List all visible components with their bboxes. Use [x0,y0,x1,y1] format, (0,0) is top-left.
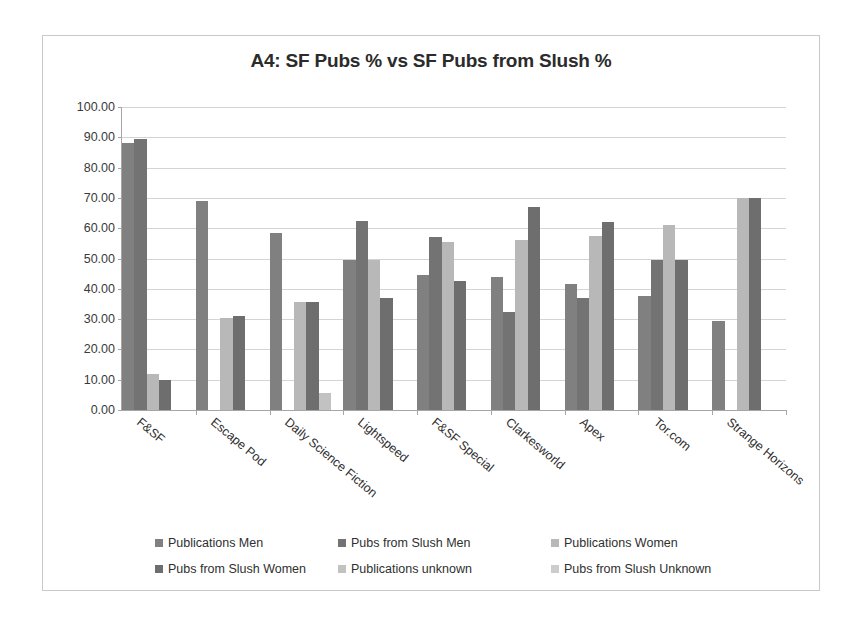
legend-swatch-icon [551,565,559,573]
bar [270,233,282,410]
bar-group [491,107,565,410]
bar [233,316,245,410]
legend-label: Pubs from Slush Men [351,536,471,550]
y-axis-tick-label: 100.00 [43,100,115,114]
bar-group [417,107,491,410]
bar [528,207,540,410]
y-axis-tick-label: 40.00 [43,282,115,296]
y-axis-tick [118,410,122,411]
bar [602,222,614,410]
x-axis-category-labels: F&SFEscape PodDaily Science FictionLight… [121,415,785,535]
bar [491,277,503,410]
bar-group [712,107,786,410]
legend-swatch-icon [338,565,346,573]
bar [712,321,724,410]
y-axis-tick-label: 30.00 [43,312,115,326]
bar [638,296,650,410]
legend-item[interactable]: Publications Women [525,530,740,556]
bar [515,240,527,410]
legend-swatch-icon [338,539,346,547]
y-axis-tick-labels: 100.0090.0080.0070.0060.0050.0040.0030.0… [43,107,115,410]
legend-item[interactable]: Pubs from Slush Women [95,556,310,582]
bar [429,237,441,410]
x-axis-category-label: Clarkesworld [503,415,567,472]
bar [368,260,380,410]
bar [122,143,134,410]
y-axis-tick-label: 80.00 [43,161,115,175]
legend-swatch-icon [155,539,163,547]
y-axis-tick-label: 60.00 [43,221,115,235]
legend-label: Pubs from Slush Unknown [564,562,711,576]
x-axis-category-label: F&SF Special [429,415,497,475]
bar [651,260,663,410]
bar [663,225,675,410]
bar [319,393,331,410]
y-axis-tick-label: 70.00 [43,191,115,205]
x-axis-category-label: F&SF [134,415,167,446]
x-axis-category-label: Lightspeed [355,415,411,465]
legend-swatch-icon [551,539,559,547]
x-axis-category-label: Strange Horizons [724,415,807,488]
bar-group [270,107,344,410]
y-axis-tick-label: 20.00 [43,342,115,356]
bar [454,281,466,410]
bar [442,242,454,410]
bar [159,380,171,410]
bar [565,284,577,410]
bar-group [343,107,417,410]
x-axis-tick [786,410,787,415]
x-axis-category-label: Escape Pod [208,415,269,469]
legend-item[interactable]: Pubs from Slush Men [310,530,525,556]
legend-item[interactable]: Publications Men [95,530,310,556]
legend-label: Publications unknown [351,562,472,576]
y-axis-tick-label: 10.00 [43,373,115,387]
legend-item[interactable]: Pubs from Slush Unknown [525,556,740,582]
legend-swatch-icon [155,565,163,573]
bar [675,260,687,410]
bar [577,298,589,410]
bar-group [196,107,270,410]
legend-label: Publications Men [168,536,263,550]
y-axis-tick-label: 0.00 [43,403,115,417]
legend-label: Pubs from Slush Women [168,562,306,576]
bar [356,221,368,410]
bar-group [565,107,639,410]
bar [196,201,208,410]
x-axis-category-label: Apex [577,415,608,444]
x-axis-category-label: Tor.com [651,415,694,454]
bar [306,302,318,410]
plot-area [121,107,786,411]
bar [503,312,515,410]
bar [417,275,429,410]
bar [343,260,355,410]
bar [589,236,601,410]
legend-label: Publications Women [564,536,678,550]
bar [737,198,749,410]
chart-legend: Publications MenPubs from Slush MenPubli… [95,530,775,582]
bar [294,302,306,410]
plot-wrapper: 100.0090.0080.0070.0060.0050.0040.0030.0… [43,36,821,592]
bar [220,318,232,410]
bar [749,198,761,410]
bar-group [122,107,196,410]
bar [147,374,159,410]
bar [380,298,392,410]
bar-group [638,107,712,410]
chart-container: A4: SF Pubs % vs SF Pubs from Slush % 10… [42,35,820,591]
bar-series-layer [122,107,786,410]
bar [134,139,146,410]
y-axis-tick-label: 90.00 [43,130,115,144]
y-axis-tick-label: 50.00 [43,252,115,266]
legend-item[interactable]: Publications unknown [310,556,525,582]
